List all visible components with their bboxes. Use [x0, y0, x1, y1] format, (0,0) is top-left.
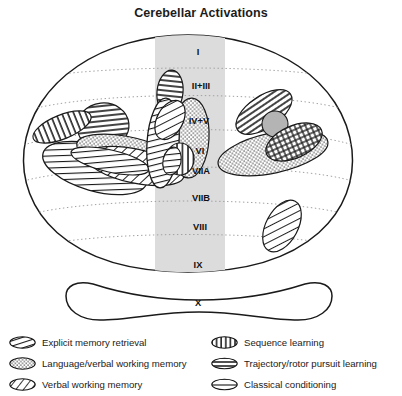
legend-label-sequence-learning: Sequence learning — [244, 337, 324, 348]
lobule-label-viii: VIII — [193, 222, 207, 232]
legend-column-left: Explicit memory retrieval — [9, 332, 187, 395]
legend-item-verbal-working-memory: Verbal working memory — [9, 374, 187, 394]
figure-root: Cerebellar Activations — [0, 0, 402, 396]
lobule-label-viia: VIIA — [192, 166, 210, 176]
stipple-swatch — [9, 357, 36, 370]
legend-item-classical-conditioning: Classical conditioning — [211, 374, 377, 394]
legend-item-language-verbal-working-memory: Language/verbal working memory — [9, 353, 187, 373]
legend-label-trajectory-rotor-pursuit-learning: Trajectory/rotor pursuit learning — [244, 358, 377, 369]
page-title: Cerebellar Activations — [0, 6, 402, 20]
legend: Explicit memory retrieval — [0, 332, 402, 396]
lobule-label-i: I — [197, 47, 200, 57]
legend-item-trajectory-rotor-pursuit-learning: Trajectory/rotor pursuit learning — [211, 353, 377, 373]
dense-horizontal-swatch — [211, 357, 238, 370]
diagonal-hatch-swatch — [9, 378, 36, 391]
legend-label-verbal-working-memory: Verbal working memory — [42, 379, 142, 390]
legend-label-explicit-memory-retrieval: Explicit memory retrieval — [42, 337, 147, 348]
legend-column-right: Sequence learning Trajectory/rotor — [211, 332, 377, 395]
sparse-horizontal-swatch — [211, 378, 238, 391]
legend-label-classical-conditioning: Classical conditioning — [244, 379, 336, 390]
lobule-label-vi: VI — [196, 146, 205, 156]
cerebellum-diagram: I II+III IV+V VI VIIA VIIB VIII IX X — [0, 20, 402, 330]
legend-label-language-verbal-working-memory: Language/verbal working memory — [42, 358, 187, 369]
lobule-label-viib: VIIB — [192, 193, 210, 203]
lobule-label-ix: IX — [194, 260, 204, 270]
lobule-label-iv-v: IV+V — [189, 116, 210, 126]
lobule-label-ii-iii: II+III — [192, 81, 210, 91]
steep-hatch-swatch — [9, 336, 36, 349]
legend-item-sequence-learning: Sequence learning — [211, 332, 377, 352]
legend-item-explicit-memory-retrieval: Explicit memory retrieval — [9, 332, 187, 352]
lobule-label-x: X — [195, 298, 202, 308]
vertical-hatch-swatch — [211, 336, 238, 349]
